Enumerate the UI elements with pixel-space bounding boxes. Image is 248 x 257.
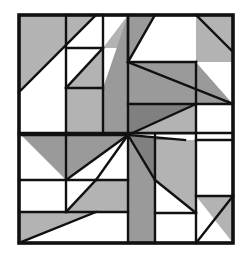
patch-layer: [19, 15, 233, 243]
quilt-patch-top-left-inner-light-strip: [66, 88, 103, 133]
quilt-patch-right-lower-white: [196, 104, 233, 140]
quilt-patch-left-mid-white-square: [19, 180, 66, 212]
quilt-block-figure: [0, 0, 248, 257]
quilt-block-canvas: [0, 0, 248, 257]
quilt-patch-right-edge-white-strip: [196, 140, 233, 196]
quilt-patch-bottom-right-white-square: [155, 213, 196, 243]
